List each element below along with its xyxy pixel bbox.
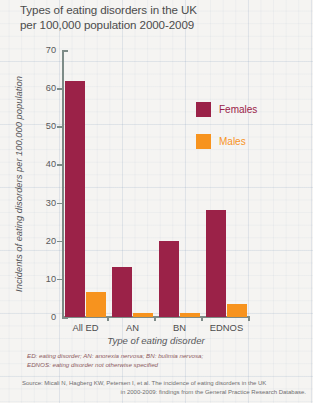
chart-sheet: Types of eating disorders in the UK per … [0, 0, 313, 403]
legend-swatch-females [196, 102, 211, 117]
y-tick-mark [57, 88, 62, 90]
legend-label-females: Females [219, 104, 257, 115]
x-axis-title: Type of eating disorder [107, 335, 204, 346]
legend-label-males: Males [219, 136, 246, 147]
source-line-2: in 2000-2009: findings from the General … [22, 388, 306, 397]
y-axis-title: Incidents of eating disorders per 100,00… [13, 76, 24, 292]
x-tick-mark [154, 316, 156, 321]
x-tick-label-ednos: EDNOS [210, 322, 243, 333]
y-tick-mark [57, 241, 62, 243]
x-tick-label-all-ed: All ED [72, 322, 98, 333]
y-tick-label: 0 [51, 312, 56, 322]
plot-area: Incidents of eating disorders per 100,00… [62, 50, 250, 317]
y-tick-mark [57, 126, 62, 128]
x-tick-label-an: AN [126, 322, 139, 333]
bar-all-ed-females [65, 81, 85, 317]
x-tick-mark [201, 316, 203, 321]
y-tick-label: 60 [46, 83, 56, 93]
abbreviation-note: ED: eating disorder; AN: anorexia nervos… [27, 352, 292, 369]
x-tick-mark [107, 316, 109, 321]
source-line-1: Source: Micali N, Hagberg KW, Petersen I… [22, 379, 306, 388]
y-tick-label: 30 [46, 198, 56, 208]
bar-all-ed-males [86, 292, 106, 317]
abbreviation-line-1: ED: eating disorder; AN: anorexia nervos… [27, 352, 292, 361]
y-tick-label: 40 [46, 159, 56, 169]
bar-ednos-males [227, 304, 247, 317]
chart-title: Types of eating disorders in the UK per … [20, 3, 295, 32]
y-tick-mark [57, 279, 62, 281]
y-tick-label: 70 [46, 45, 56, 55]
y-tick-label: 50 [46, 121, 56, 131]
bar-ednos-females [206, 210, 226, 317]
x-tick-mark [248, 316, 250, 321]
legend-item-females: Females [196, 102, 257, 117]
abbreviation-line-2: EDNOS: eating disorder not otherwise spe… [27, 361, 292, 370]
chart-title-line-2: per 100,000 population 2000-2009 [20, 18, 295, 33]
y-tick-label: 20 [46, 236, 56, 246]
x-tick-label-bn: BN [173, 322, 186, 333]
bar-an-males [133, 313, 153, 317]
legend-item-males: Males [196, 134, 257, 149]
y-tick-mark [62, 317, 68, 319]
y-tick-label: 10 [46, 274, 56, 284]
bar-an-females [112, 267, 132, 317]
source-citation: Source: Micali N, Hagberg KW, Petersen I… [22, 379, 306, 396]
chart-legend: FemalesMales [196, 102, 257, 166]
y-tick-mark [62, 50, 68, 52]
chart-title-line-1: Types of eating disorders in the UK [20, 3, 295, 18]
y-tick-mark [57, 164, 62, 166]
legend-swatch-males [196, 134, 211, 149]
bar-bn-males [180, 313, 200, 317]
bar-bn-females [159, 241, 179, 317]
y-tick-mark [57, 203, 62, 205]
